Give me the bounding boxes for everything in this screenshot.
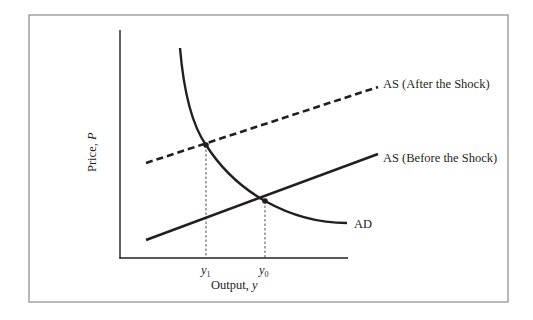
as-after-label: AS (After the Shock) — [383, 77, 490, 91]
tick-y0: y0 — [257, 263, 269, 279]
as-before-curve — [146, 154, 378, 240]
ad-label: AD — [354, 217, 372, 231]
as-after-curve — [146, 87, 378, 163]
as-before-label: AS (Before the Shock) — [383, 151, 497, 165]
x-axis-label: Output, y — [211, 278, 258, 292]
as-ad-diagram: AS (After the Shock) AS (Before the Shoc… — [0, 0, 533, 320]
equilibrium-after-point — [203, 142, 209, 148]
y-axis-label: Price, P — [85, 132, 99, 172]
equilibrium-before-point — [262, 198, 268, 204]
tick-y1: y1 — [199, 263, 211, 279]
